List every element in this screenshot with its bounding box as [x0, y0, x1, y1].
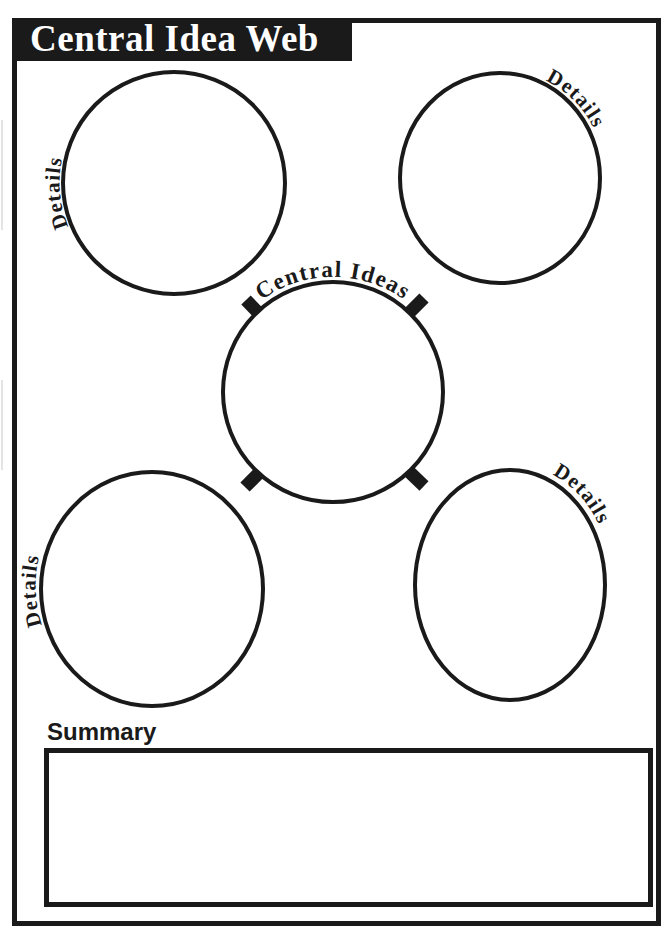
page-title: Central Idea Web [30, 18, 319, 59]
summary-label: Summary [47, 718, 157, 745]
worksheet-page: Central Idea Web Details Details Details… [0, 0, 671, 931]
detail-bubble-bottom-left[interactable] [41, 472, 263, 706]
summary-input-box[interactable] [47, 751, 651, 905]
detail-bubble-top-right[interactable] [400, 73, 600, 283]
detail-bubble-top-left[interactable] [63, 72, 285, 294]
central-idea-web-diagram: Central Idea Web Details Details Details… [0, 0, 671, 931]
detail-bubble-bottom-right[interactable] [415, 470, 605, 700]
center-bubble[interactable] [223, 282, 443, 502]
